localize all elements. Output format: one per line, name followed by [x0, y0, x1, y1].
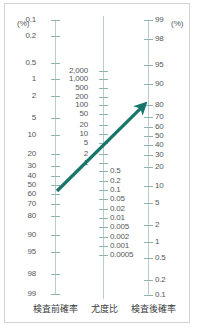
tick-mark: [51, 118, 60, 119]
tick-mark: [144, 136, 153, 137]
tick-mark: [99, 71, 108, 72]
tick-label-pre-test-probability: 98: [28, 270, 37, 278]
tick-mark: [99, 88, 108, 89]
tick-label-post-test-probability: 90: [155, 80, 164, 88]
tick-label-likelihood-ratio: 1,000: [69, 75, 88, 83]
tick-mark: [51, 154, 60, 155]
tick-label-likelihood-ratio: 5: [84, 139, 88, 147]
tick-mark: [144, 105, 153, 106]
tick-mark: [51, 79, 60, 80]
tick-mark: [144, 242, 153, 243]
tick-mark: [51, 194, 60, 195]
tick-label-pre-test-probability: 10: [28, 131, 37, 139]
tick-label-post-test-probability: 10: [155, 182, 164, 190]
tick-mark: [51, 166, 60, 167]
tick-mark: [144, 225, 153, 226]
tick-label-post-test-probability: 2: [155, 221, 159, 229]
tick-label-post-test-probability: 20: [155, 163, 164, 171]
tick-label-likelihood-ratio: 0.2: [110, 177, 121, 185]
tick-label-pre-test-probability: 95: [28, 248, 37, 256]
tick-label-pre-test-probability: 70: [28, 200, 37, 208]
tick-label-post-test-probability: 70: [155, 113, 164, 121]
tick-mark: [144, 84, 153, 85]
tick-label-pre-test-probability: 0.2: [25, 32, 36, 40]
tick-label-likelihood-ratio: 500: [75, 84, 88, 92]
tick-label-pre-test-probability: 80: [28, 212, 37, 220]
tick-mark: [144, 155, 153, 156]
tick-mark: [144, 203, 153, 204]
tick-mark: [144, 295, 153, 296]
tick-mark: [144, 20, 153, 21]
tick-label-pre-test-probability: 50: [28, 181, 37, 189]
right-axis-unit-label: (%): [171, 20, 183, 28]
tick-label-likelihood-ratio: 0.1: [110, 186, 121, 194]
tick-label-pre-test-probability: 0.1: [25, 16, 36, 24]
post-test-axis-line: [148, 20, 149, 295]
tick-mark: [144, 280, 153, 281]
tick-mark: [99, 218, 108, 219]
tick-mark: [99, 154, 108, 155]
tick-mark: [144, 167, 153, 168]
tick-mark: [99, 181, 108, 182]
tick-label-post-test-probability: 5: [155, 199, 159, 207]
tick-label-post-test-probability: 0.2: [155, 276, 166, 284]
tick-label-pre-test-probability: 99: [28, 290, 37, 298]
tick-mark: [99, 125, 108, 126]
tick-mark: [144, 39, 153, 40]
tick-label-post-test-probability: 98: [155, 35, 164, 43]
tick-label-likelihood-ratio: 0.05: [110, 195, 125, 203]
tick-label-post-test-probability: 30: [155, 151, 164, 159]
tick-label-likelihood-ratio: 0.5: [110, 167, 121, 175]
tick-mark: [99, 237, 108, 238]
nomogram-panel: (%) (%) 0.10.20.512510203040506070809095…: [4, 3, 190, 323]
tick-mark: [99, 79, 108, 80]
tick-label-likelihood-ratio: 20: [80, 121, 89, 129]
tick-label-post-test-probability: 60: [155, 123, 164, 131]
tick-label-post-test-probability: 80: [155, 101, 164, 109]
tick-label-likelihood-ratio: 100: [75, 101, 88, 109]
tick-mark: [144, 65, 153, 66]
tick-mark: [99, 171, 108, 172]
tick-mark: [99, 255, 108, 256]
tick-mark: [51, 36, 60, 37]
tick-label-likelihood-ratio: 10: [80, 130, 89, 138]
tick-label-pre-test-probability: 5: [32, 114, 36, 122]
tick-mark: [51, 63, 60, 64]
tick-mark: [144, 145, 153, 146]
nomogram-plot-area: (%) (%) 0.10.20.512510203040506070809095…: [5, 4, 189, 322]
tick-mark: [99, 105, 108, 106]
tick-mark: [51, 252, 60, 253]
tick-mark: [144, 186, 153, 187]
tick-mark: [51, 204, 60, 205]
tick-mark: [51, 274, 60, 275]
tick-label-likelihood-ratio: 0.002: [110, 233, 129, 241]
pre-test-axis-line: [55, 20, 56, 295]
tick-mark: [51, 185, 60, 186]
tick-label-likelihood-ratio: 0.0005: [110, 251, 133, 259]
caption-post-test-probability: 検査後確率: [117, 304, 189, 314]
tick-mark: [51, 176, 60, 177]
tick-label-likelihood-ratio: 1: [84, 159, 88, 167]
tick-mark: [99, 97, 108, 98]
tick-mark: [51, 135, 60, 136]
tick-mark: [99, 134, 108, 135]
tick-label-pre-test-probability: 90: [28, 231, 37, 239]
tick-mark: [99, 246, 108, 247]
tick-label-pre-test-probability: 20: [28, 150, 37, 158]
tick-mark: [99, 163, 108, 164]
tick-label-pre-test-probability: 60: [28, 190, 37, 198]
tick-label-post-test-probability: 50: [155, 132, 164, 140]
tick-mark: [144, 127, 153, 128]
tick-label-post-test-probability: 0.1: [155, 291, 166, 299]
tick-label-post-test-probability: 1: [155, 238, 159, 246]
tick-label-likelihood-ratio: 2: [84, 150, 88, 158]
tick-label-likelihood-ratio: 0.02: [110, 205, 125, 213]
tick-mark: [99, 143, 108, 144]
tick-label-pre-test-probability: 40: [28, 172, 37, 180]
tick-label-post-test-probability: 99: [155, 16, 164, 24]
tick-label-post-test-probability: 0.5: [155, 254, 166, 262]
tick-mark: [51, 96, 60, 97]
tick-label-post-test-probability: 40: [155, 141, 164, 149]
tick-mark: [51, 216, 60, 217]
tick-mark: [51, 20, 60, 21]
